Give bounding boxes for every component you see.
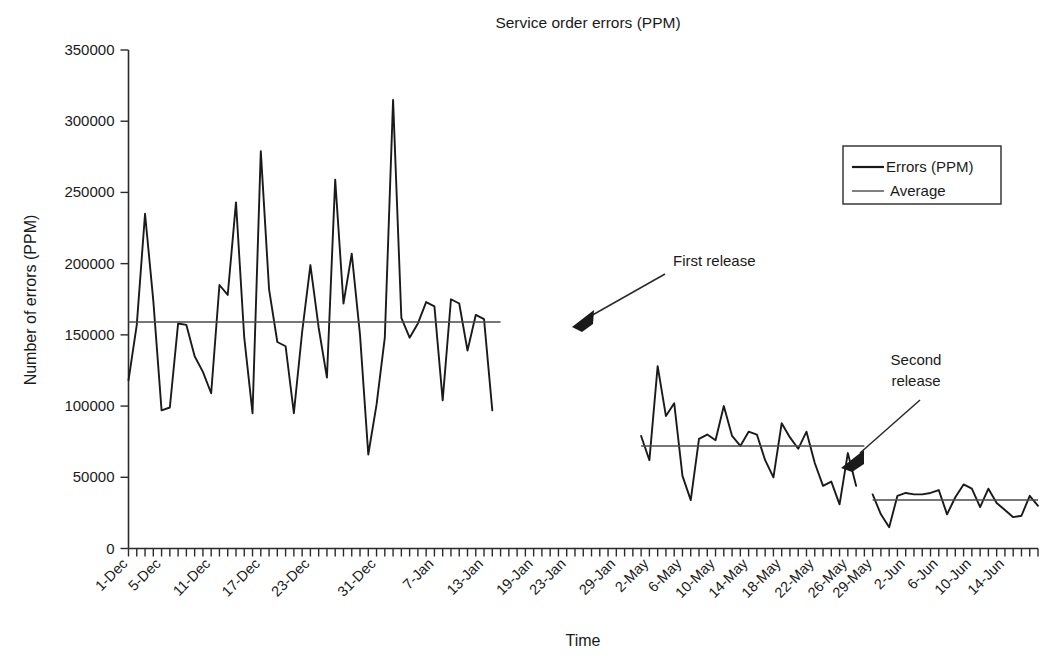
chart-container: Service order errors (PPM) Number of err… bbox=[0, 0, 1063, 668]
chart-title: Service order errors (PPM) bbox=[495, 14, 680, 31]
annotation-second-release-label-line1: Second bbox=[891, 351, 942, 368]
legend-label-average: Average bbox=[890, 182, 946, 199]
y-tick-label: 50000 bbox=[73, 468, 115, 485]
legend: Errors (PPM) Average bbox=[843, 146, 1001, 204]
service-order-errors-chart: Service order errors (PPM) Number of err… bbox=[0, 0, 1063, 668]
legend-label-errors: Errors (PPM) bbox=[886, 158, 974, 175]
y-tick-label: 0 bbox=[106, 540, 114, 557]
y-tick-label: 150000 bbox=[64, 326, 114, 343]
y-tick-label: 100000 bbox=[64, 397, 114, 414]
y-tick-label: 350000 bbox=[64, 41, 114, 58]
y-tick-label: 200000 bbox=[64, 255, 114, 272]
y-tick-label: 300000 bbox=[64, 112, 114, 129]
annotation-second-release-label-line2: release bbox=[891, 372, 940, 389]
annotation-first-release-label: First release bbox=[673, 252, 756, 269]
y-tick-label: 250000 bbox=[64, 183, 114, 200]
y-axis-title: Number of errors (PPM) bbox=[22, 215, 39, 386]
x-axis-title: Time bbox=[566, 632, 601, 649]
